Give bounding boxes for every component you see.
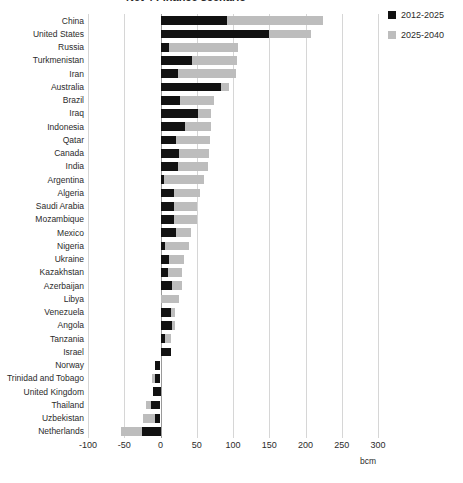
bar-segment-2025-2040: [164, 175, 204, 184]
bar-row: [88, 122, 378, 131]
gridline: [378, 14, 379, 438]
x-axis-unit-label: bcm: [360, 456, 376, 466]
legend-swatch-icon: [388, 11, 396, 19]
bar-segment-2012-2025: [161, 149, 180, 158]
y-axis-category-label: Turkmenistan: [0, 55, 84, 65]
bar-segment-2025-2040: [227, 16, 323, 25]
y-axis-category-label: Azerbaijan: [0, 281, 84, 291]
bar-row: [88, 136, 378, 145]
x-axis-ticks: -100-50050100150200250300: [88, 440, 378, 454]
y-axis-category-label: Brazil: [0, 95, 84, 105]
y-axis-category-label: Mexico: [0, 228, 84, 238]
bar-row: [88, 175, 378, 184]
bar-segment-2012-2025: [161, 30, 270, 39]
bar-chart: Net 4 Finance scenario ChinaUnited State…: [0, 0, 463, 483]
x-tick-label: 100: [225, 440, 240, 450]
bar-segment-2012-2025: [161, 348, 171, 357]
bar-row: [88, 401, 378, 410]
bar-segment-2025-2040: [178, 162, 208, 171]
y-axis-category-label: Kazakhstan: [0, 267, 84, 277]
y-axis-category-label: Saudi Arabia: [0, 201, 84, 211]
bar-segment-2012-2025: [161, 215, 174, 224]
y-axis-category-label: Australia: [0, 82, 84, 92]
bar-segment-2012-2025: [161, 109, 199, 118]
x-tick-label: 300: [370, 440, 385, 450]
bar-row: [88, 321, 378, 330]
bar-segment-2025-2040: [143, 414, 155, 423]
y-axis-category-label: Trinidad and Tobago: [0, 373, 84, 383]
bar-segment-2025-2040: [269, 30, 310, 39]
bar-segment-2012-2025: [161, 83, 221, 92]
y-axis-category-label: China: [0, 16, 84, 26]
bar-segment-2025-2040: [174, 215, 197, 224]
y-axis-category-label: Israel: [0, 347, 84, 357]
y-axis-category-label: Indonesia: [0, 122, 84, 132]
bar-rows: [88, 14, 378, 438]
y-axis-category-label: Angola: [0, 320, 84, 330]
bar-segment-2025-2040: [171, 308, 175, 317]
bar-row: [88, 83, 378, 92]
bar-segment-2012-2025: [155, 361, 161, 370]
y-axis-category-label: Norway: [0, 360, 84, 370]
y-axis-category-label: Libya: [0, 294, 84, 304]
x-tick-label: 150: [262, 440, 277, 450]
bar-row: [88, 162, 378, 171]
legend-item: 2025-2040: [388, 30, 463, 40]
plot-area: [88, 14, 378, 438]
bar-segment-2012-2025: [161, 308, 171, 317]
bar-segment-2025-2040: [172, 281, 181, 290]
y-axis-category-label: Iraq: [0, 108, 84, 118]
bar-row: [88, 189, 378, 198]
chart-title: Net 4 Finance scenario: [0, 0, 372, 3]
bar-segment-2012-2025: [161, 16, 228, 25]
y-axis-category-label: United Kingdom: [0, 387, 84, 397]
bar-row: [88, 149, 378, 158]
bar-segment-2025-2040: [176, 228, 191, 237]
y-axis-category-label: Iran: [0, 69, 84, 79]
bar-row: [88, 414, 378, 423]
bar-segment-2025-2040: [169, 255, 184, 264]
bar-segment-2012-2025: [161, 43, 170, 52]
y-axis-labels: ChinaUnited StatesRussiaTurkmenistanIran…: [0, 14, 84, 438]
y-axis-category-label: Mozambique: [0, 214, 84, 224]
bar-row: [88, 215, 378, 224]
bar-row: [88, 361, 378, 370]
bar-segment-2025-2040: [221, 83, 230, 92]
bar-row: [88, 96, 378, 105]
bar-segment-2012-2025: [142, 427, 160, 436]
bar-row: [88, 16, 378, 25]
bar-segment-2025-2040: [169, 43, 238, 52]
x-tick-label: 200: [298, 440, 313, 450]
bar-segment-2025-2040: [178, 69, 236, 78]
bar-segment-2012-2025: [155, 374, 160, 383]
bar-row: [88, 268, 378, 277]
bar-segment-2025-2040: [179, 149, 209, 158]
y-axis-category-label: Nigeria: [0, 241, 84, 251]
bar-segment-2025-2040: [165, 242, 189, 251]
x-tick-label: 50: [192, 440, 202, 450]
bar-row: [88, 374, 378, 383]
bar-segment-2025-2040: [161, 295, 180, 304]
bar-segment-2025-2040: [152, 374, 156, 383]
bar-segment-2012-2025: [161, 56, 192, 65]
y-axis-category-label: Qatar: [0, 135, 84, 145]
bar-segment-2012-2025: [161, 96, 181, 105]
bar-segment-2012-2025: [151, 401, 160, 410]
bar-segment-2012-2025: [161, 321, 173, 330]
bar-segment-2025-2040: [121, 427, 143, 436]
y-axis-category-label: Canada: [0, 148, 84, 158]
bar-segment-2012-2025: [161, 268, 169, 277]
y-axis-category-label: Argentina: [0, 175, 84, 185]
x-tick-label: 250: [334, 440, 349, 450]
bar-segment-2012-2025: [161, 202, 174, 211]
y-axis-category-label: Thailand: [0, 400, 84, 410]
bar-segment-2025-2040: [198, 109, 210, 118]
legend-swatch-icon: [388, 31, 396, 39]
bar-row: [88, 295, 378, 304]
bar-row: [88, 43, 378, 52]
bar-segment-2025-2040: [174, 189, 199, 198]
y-axis-category-label: Russia: [0, 42, 84, 52]
bar-row: [88, 109, 378, 118]
y-axis-category-label: United States: [0, 29, 84, 39]
bar-segment-2025-2040: [165, 334, 172, 343]
